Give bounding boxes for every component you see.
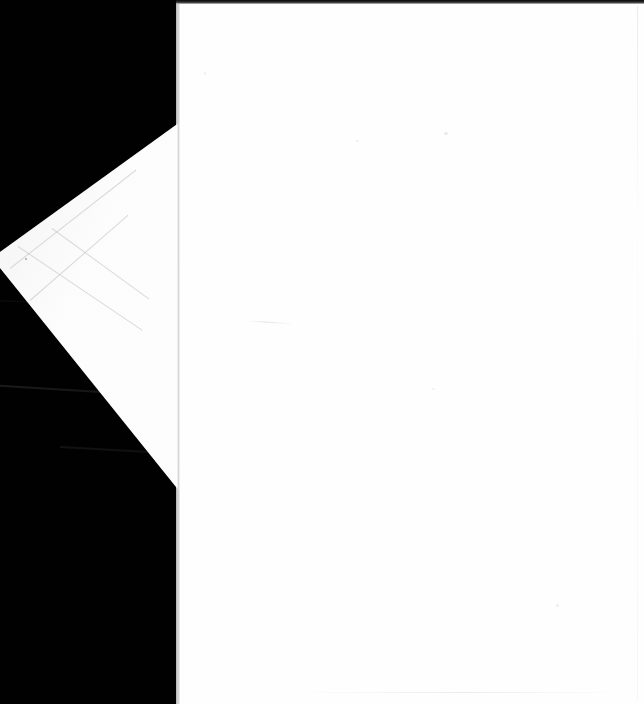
scanned-page-surface (176, 4, 644, 704)
scanned-page-viewport (0, 0, 644, 704)
vertical-fold-crease (177, 4, 180, 704)
paper-speck-icon (25, 258, 27, 260)
scanner-top-edge (176, 0, 644, 4)
